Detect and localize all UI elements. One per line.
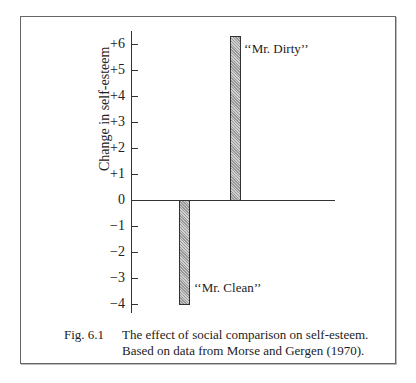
y-tick bbox=[132, 226, 138, 227]
y-tick bbox=[132, 96, 138, 97]
y-tick bbox=[132, 174, 138, 175]
y-tick bbox=[132, 304, 138, 305]
y-tick-label: −3 bbox=[85, 271, 125, 285]
label-mr-dirty: ‘‘Mr. Dirty’’ bbox=[244, 41, 309, 57]
bar-mr-clean bbox=[179, 200, 190, 305]
y-tick bbox=[132, 252, 138, 253]
y-tick-label: −2 bbox=[85, 245, 125, 259]
y-tick bbox=[132, 148, 138, 149]
caption-line-2: Based on data from Morse and Gergen (197… bbox=[64, 343, 368, 359]
y-tick bbox=[132, 70, 138, 71]
label-mr-clean: ‘‘Mr. Clean’’ bbox=[194, 280, 261, 296]
y-tick bbox=[132, 278, 138, 279]
y-axis-label: Change in self-esteem bbox=[97, 47, 113, 171]
bar-mr-dirty bbox=[230, 36, 241, 201]
caption-line-1: The effect of social comparison on self-… bbox=[122, 327, 368, 342]
y-tick bbox=[132, 122, 138, 123]
y-tick-label: −1 bbox=[85, 219, 125, 233]
y-tick bbox=[132, 44, 138, 45]
figure-caption: Fig. 6.1The effect of social comparison … bbox=[64, 327, 368, 359]
figure-number: Fig. 6.1 bbox=[64, 327, 122, 343]
figure-frame bbox=[20, 16, 396, 364]
y-axis bbox=[131, 31, 132, 313]
y-tick-label: −4 bbox=[85, 297, 125, 311]
y-tick-label: 0 bbox=[85, 193, 125, 207]
